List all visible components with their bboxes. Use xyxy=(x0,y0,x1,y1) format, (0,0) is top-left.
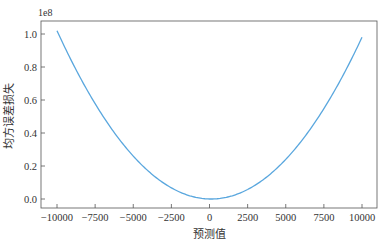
x-tick-label: −2500 xyxy=(158,212,185,223)
y-tick-label: 0.8 xyxy=(24,62,37,73)
x-tick-label: −7500 xyxy=(82,212,109,223)
loss-curve xyxy=(57,31,362,199)
y-axis-label: 均方误差损失 xyxy=(2,83,16,149)
x-tick-label: 0 xyxy=(207,212,212,223)
y-axis-ticks: 0.00.20.40.60.81.0 xyxy=(24,29,45,205)
x-axis-label: 预测值 xyxy=(193,228,226,241)
y-tick-label: 0.2 xyxy=(24,161,37,172)
y-offset-label: 1e8 xyxy=(38,7,52,18)
plot-frame xyxy=(41,21,377,208)
x-tick-label: −5000 xyxy=(120,212,147,223)
x-tick-label: 2500 xyxy=(237,212,258,223)
y-tick-label: 0.6 xyxy=(24,95,37,106)
x-tick-label: 10000 xyxy=(349,212,375,223)
x-tick-label: 7500 xyxy=(313,212,334,223)
y-tick-label: 1.0 xyxy=(24,29,37,40)
y-tick-label: 0.0 xyxy=(24,194,37,205)
x-tick-label: −10000 xyxy=(41,212,73,223)
y-tick-label: 0.4 xyxy=(24,128,38,139)
mse-loss-chart: −10000−7500−5000−2500025005000750010000 … xyxy=(0,0,385,242)
x-tick-label: 5000 xyxy=(275,212,296,223)
x-axis-ticks: −10000−7500−5000−2500025005000750010000 xyxy=(41,204,375,223)
